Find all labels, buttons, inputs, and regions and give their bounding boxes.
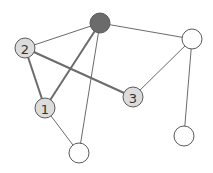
- node-circle: [90, 13, 110, 33]
- graph-diagram: 213: [0, 0, 213, 173]
- node-circle: [174, 126, 194, 146]
- node-n2: 2: [15, 38, 35, 58]
- edge-top-tr: [100, 23, 192, 39]
- node-circle: [69, 143, 89, 163]
- node-bot: [69, 143, 89, 163]
- edges-layer: [25, 23, 192, 153]
- node-n3: 3: [123, 87, 143, 107]
- node-label: 1: [41, 102, 49, 117]
- edge-top-bot: [79, 23, 100, 153]
- node-circle: [182, 29, 202, 49]
- edge-n3-tr: [133, 39, 192, 97]
- edge-top-n2: [25, 23, 100, 48]
- node-br: [174, 126, 194, 146]
- node-n1: 1: [35, 98, 55, 118]
- node-label: 2: [21, 42, 29, 57]
- edge-top-n1: [45, 23, 100, 108]
- node-top: [90, 13, 110, 33]
- node-label: 3: [129, 91, 137, 106]
- edge-tr-br: [184, 39, 192, 136]
- node-tr: [182, 29, 202, 49]
